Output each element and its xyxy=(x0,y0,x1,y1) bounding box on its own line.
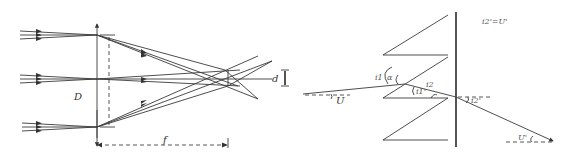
label-equation: i2'=U' xyxy=(482,17,508,26)
label-i1-prime: i1' xyxy=(416,87,426,96)
label-d: d xyxy=(272,73,278,84)
label-i2-prime: i2' xyxy=(471,96,481,105)
incoming-rays xyxy=(20,29,97,133)
label-f: f xyxy=(162,134,169,145)
label-i2: i2 xyxy=(426,80,434,89)
focal-length-dimension: f xyxy=(97,134,228,148)
optics-diagram: d D f xyxy=(0,0,573,155)
label-alpha: α xyxy=(387,73,393,82)
spot-size-dimension: d xyxy=(272,70,289,86)
sawtooth-prism xyxy=(383,15,448,140)
outgoing-rays xyxy=(97,35,272,127)
label-D: D xyxy=(73,91,82,102)
lens-diagram: d D f xyxy=(20,24,289,148)
label-i1: i1 xyxy=(375,73,383,82)
prism-diagram: i2'=U' i1 α i1' i2 i2' U U' xyxy=(303,12,553,147)
label-U: U xyxy=(336,95,345,106)
label-U-prime: U' xyxy=(518,133,527,142)
ray-path xyxy=(303,84,553,142)
angle-arcs xyxy=(331,67,533,142)
